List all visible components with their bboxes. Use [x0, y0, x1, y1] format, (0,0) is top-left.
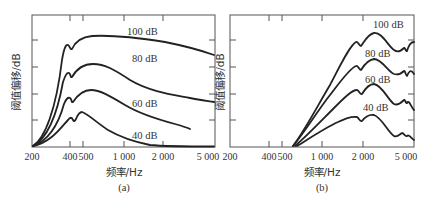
- svg-text:2 000: 2 000: [152, 151, 175, 162]
- panel-a-label-80db: 80 dB: [132, 53, 157, 64]
- svg-text:400: 400: [63, 151, 78, 162]
- panel-b-curve-100db: [293, 33, 414, 146]
- panel-b-x-tick-labels: 200 400 500 1 000 2 000 5 000: [223, 151, 418, 162]
- panel-b-label-80db: 80 dB: [365, 48, 390, 59]
- panel-a-curve-60db: [33, 90, 190, 146]
- panel-b-curve-40db: [297, 115, 414, 146]
- panel-b-curve-80db: [293, 59, 414, 146]
- panel-b-caption: (b): [316, 182, 329, 194]
- panel-a: 100 dB 80 dB 60 dB 40 dB 200 400 500 1 0…: [10, 15, 219, 194]
- panel-a-label-60db: 60 dB: [132, 98, 157, 109]
- svg-text:400: 400: [262, 151, 277, 162]
- svg-text:2 000: 2 000: [352, 151, 375, 162]
- panel-b-label-40db: 40 dB: [363, 102, 388, 113]
- svg-text:500: 500: [79, 151, 94, 162]
- panel-a-y-axis-label: 阈值偏移/dB: [10, 53, 22, 110]
- figure: 100 dB 80 dB 60 dB 40 dB 200 400 500 1 0…: [0, 0, 425, 197]
- svg-text:200: 200: [25, 151, 40, 162]
- panel-a-x-axis-label: 频率/Hz: [106, 166, 143, 178]
- panel-a-label-100db: 100 dB: [127, 26, 158, 37]
- svg-text:1 000: 1 000: [113, 151, 136, 162]
- panel-b: 100 dB 80 dB 60 dB 40 dB 200 400 500 1 0…: [214, 15, 417, 194]
- panel-a-label-40db: 40 dB: [132, 130, 157, 141]
- svg-text:500: 500: [278, 151, 293, 162]
- panel-b-label-60db: 60 dB: [365, 74, 390, 85]
- svg-text:5 000: 5 000: [395, 151, 418, 162]
- panel-b-label-100db: 100 dB: [373, 19, 404, 30]
- panel-a-x-tick-labels: 200 400 500 1 000 2 000 5 000: [25, 151, 220, 162]
- svg-text:5 000: 5 000: [197, 151, 220, 162]
- panel-a-caption: (a): [118, 182, 130, 194]
- panel-b-x-axis-label: 频率/Hz: [304, 166, 341, 178]
- svg-text:1 000: 1 000: [311, 151, 334, 162]
- svg-text:200: 200: [223, 151, 238, 162]
- panel-b-y-axis-label: 阈值偏移/dB: [214, 53, 226, 110]
